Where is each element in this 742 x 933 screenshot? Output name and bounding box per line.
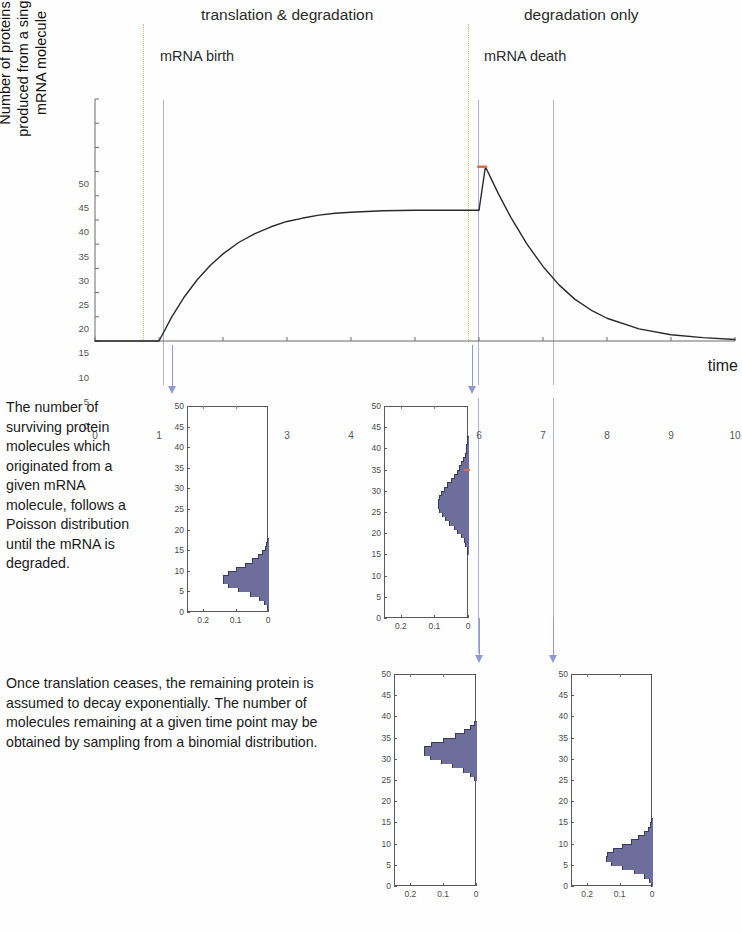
histogram-bar: [474, 721, 477, 726]
histogram-y-tickmark: [571, 780, 574, 781]
paragraph-binomial: Once translation ceases, the remaining p…: [6, 674, 336, 752]
histogram-y-tick: 30: [365, 487, 381, 495]
paragraph-poisson: The number of surviving protein molecule…: [6, 398, 138, 574]
main-x-tick: 3: [278, 430, 296, 441]
histogram-y-tick: 0: [168, 608, 184, 616]
histogram-y-tickmark: [384, 406, 387, 407]
histogram-y-tickmark: [384, 554, 387, 555]
histogram-y-tick: 35: [375, 734, 391, 742]
histogram-y-tickmark: [384, 597, 387, 598]
histogram-x-tickmark: [468, 615, 469, 618]
histogram-y-tickmark: [571, 801, 574, 802]
histogram-x-tick: 0.1: [609, 889, 631, 899]
histogram-y-tickmark: [394, 716, 397, 717]
main-x-tick: 4: [342, 430, 360, 441]
main-plot-canvas: [0, 85, 742, 385]
event-label-mrna-birth: mRNA birth: [160, 48, 234, 64]
histogram-y-tick: 25: [168, 505, 184, 513]
histogram-y-tickmark: [394, 738, 397, 739]
main-y-tick: 10: [71, 372, 89, 383]
arrow-stem-panel2: [472, 345, 473, 387]
main-y-tick: 40: [71, 226, 89, 237]
histogram-x-tickmark: [443, 883, 444, 886]
histogram-y-tickmark: [187, 509, 190, 510]
histogram-y-tick: 45: [552, 691, 568, 699]
histogram-x-tick: 0.2: [576, 889, 598, 899]
histogram-y-tickmark: [394, 674, 397, 675]
histogram-y-tick: 50: [375, 670, 391, 678]
histogram-y-tick: 5: [168, 587, 184, 595]
main-y-tick: 45: [71, 202, 89, 213]
histogram-y-tick: 30: [552, 755, 568, 763]
histogram-y-tick: 10: [375, 840, 391, 848]
histogram-y-tick: 30: [168, 484, 184, 492]
main-plot-xlabel: time: [708, 357, 738, 375]
histogram-x-tick: 0: [257, 615, 279, 625]
histogram-y-tick: 10: [552, 840, 568, 848]
main-y-tick: 25: [71, 299, 89, 310]
histogram-y-tick: 35: [365, 466, 381, 474]
histogram-y-tick: 5: [552, 861, 568, 869]
histogram-panel-binomial-t9: 051015202530354045500.20.10: [549, 668, 656, 904]
section-heading-left: translation & degradation: [201, 6, 373, 24]
histogram-y-tick: 30: [375, 755, 391, 763]
histogram-y-tickmark: [187, 406, 190, 407]
histogram-y-tick: 15: [552, 818, 568, 826]
histogram-y-tickmark: [187, 530, 190, 531]
histogram-x-tick: 0.1: [423, 621, 445, 631]
histogram-x-tickmark: [410, 883, 411, 886]
histogram-top-tickmark: [587, 674, 588, 677]
histogram-y-tickmark: [384, 512, 387, 513]
main-x-tick: 6: [470, 430, 488, 441]
histogram-y-tick: 40: [168, 443, 184, 451]
histogram-y-tick: 0: [552, 882, 568, 890]
main-y-tick: 30: [71, 275, 89, 286]
main-plot: Number of proteins produced from a singl…: [0, 85, 742, 385]
main-x-tick: 7: [534, 430, 552, 441]
histogram-top-tickmark: [203, 406, 204, 409]
histogram-y-tickmark: [394, 695, 397, 696]
histogram-y-tickmark: [187, 447, 190, 448]
histogram-x-tick: 0: [641, 889, 663, 899]
histogram-y-tick: 40: [365, 444, 381, 452]
histogram-y-tickmark: [571, 716, 574, 717]
histogram-y-tickmark: [384, 491, 387, 492]
histogram-x-tick: 0.2: [192, 615, 214, 625]
histogram-y-tick: 5: [375, 861, 391, 869]
histogram-y-tickmark: [571, 759, 574, 760]
histogram-y-tick: 50: [168, 402, 184, 410]
main-x-tick: 9: [662, 430, 680, 441]
histogram-x-tickmark: [587, 883, 588, 886]
histogram-bar: [267, 538, 269, 543]
histogram-y-tick: 45: [168, 423, 184, 431]
histogram-y-tickmark: [571, 844, 574, 845]
arrow-stem-panel1: [172, 345, 173, 387]
arrow-head-panel4: [549, 655, 557, 663]
histogram-y-tickmark: [571, 886, 574, 887]
histogram-y-tickmark: [187, 427, 190, 428]
histogram-y-tick: 25: [552, 776, 568, 784]
histogram-y-tick: 20: [552, 797, 568, 805]
arrow-head-panel2: [468, 386, 476, 394]
histogram-y-tick: 50: [552, 670, 568, 678]
histogram-bar: [467, 436, 469, 441]
main-y-tick: 15: [71, 347, 89, 358]
histogram-y-tickmark: [394, 886, 397, 887]
histogram-y-tickmark: [571, 865, 574, 866]
histogram-y-tickmark: [384, 576, 387, 577]
histogram-y-tickmark: [187, 591, 190, 592]
histogram-y-tickmark: [187, 571, 190, 572]
histogram-y-tick: 10: [168, 567, 184, 575]
histogram-y-tick: 15: [168, 546, 184, 554]
histogram-x-tick: 0.1: [225, 615, 247, 625]
histogram-y-tickmark: [187, 488, 190, 489]
histogram-y-tick: 5: [365, 593, 381, 601]
histogram-y-tick: 45: [375, 691, 391, 699]
histogram-y-tick: 35: [168, 464, 184, 472]
arrow-stem-panel4: [553, 618, 554, 656]
histogram-y-tick: 25: [375, 776, 391, 784]
histogram-y-tick: 40: [552, 712, 568, 720]
histogram-top-tickmark: [443, 674, 444, 677]
histogram-y-tickmark: [187, 612, 190, 613]
main-x-tick: 10: [726, 430, 742, 441]
